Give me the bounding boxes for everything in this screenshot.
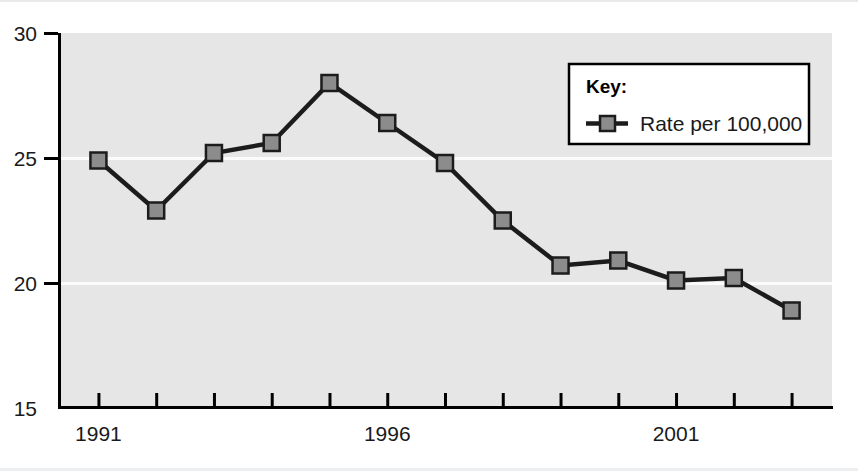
legend[interactable]: Key: Rate per 100,000 <box>569 64 809 144</box>
y-axis-tick-label: 25 <box>14 147 37 170</box>
data-point-marker <box>553 258 569 274</box>
data-point-marker <box>90 153 106 169</box>
line-chart: 15202530 199119962001 Key: Rate per 100,… <box>0 0 858 471</box>
data-point-marker <box>206 145 222 161</box>
legend-swatch-marker <box>600 116 615 131</box>
y-axis-tick-label: 20 <box>14 272 37 295</box>
data-point-marker <box>610 253 626 269</box>
data-point-marker <box>264 135 280 151</box>
data-point-marker <box>379 115 395 131</box>
data-point-marker <box>437 155 453 171</box>
chart-figure: 15202530 199119962001 Key: Rate per 100,… <box>0 0 858 471</box>
legend-entry-label: Rate per 100,000 <box>640 112 802 135</box>
x-axis-tick-label: 1996 <box>364 422 411 445</box>
data-point-marker <box>321 75 337 91</box>
y-axis-tick-label: 15 <box>14 397 37 420</box>
data-point-marker <box>148 203 164 219</box>
data-point-marker <box>495 213 511 229</box>
y-axis-ticks <box>44 34 58 284</box>
legend-title: Key: <box>586 76 627 97</box>
data-point-marker <box>784 303 800 319</box>
x-axis-tick-labels: 199119962001 <box>75 422 699 445</box>
y-axis-tick-labels: 15202530 <box>14 22 37 420</box>
data-point-marker <box>668 273 684 289</box>
y-axis-tick-label: 30 <box>14 22 37 45</box>
x-axis-tick-label: 2001 <box>653 422 700 445</box>
x-axis-tick-label: 1991 <box>75 422 122 445</box>
data-point-marker <box>726 270 742 286</box>
